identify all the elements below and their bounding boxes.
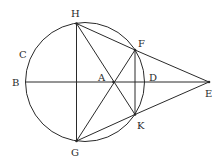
label-b: B [12,77,19,88]
label-a: A [97,72,106,83]
point-g [75,140,78,143]
point-k [134,113,137,116]
point-h [75,22,78,25]
label-g: G [71,147,79,158]
label-d: D [149,72,157,83]
diagram-shapes [26,22,211,142]
point-e [208,81,211,84]
label-c: C [19,49,27,60]
segment-fe [135,50,209,82]
label-k: K [137,120,145,131]
geometry-diagram: HCBADEFKG [0,0,222,162]
segment-ke [135,82,209,115]
point-a [112,81,115,84]
label-f: F [138,38,145,49]
label-e: E [205,88,212,99]
label-h: H [71,8,80,19]
point-f [134,49,137,52]
